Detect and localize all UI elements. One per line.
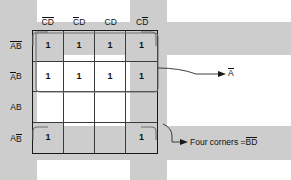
row-header-1: AB [2, 61, 30, 92]
kmap-cell-r1c3[interactable]: 1 [126, 62, 157, 93]
arrowhead-group-a [218, 71, 226, 77]
kmap-cell-r0c0[interactable]: 1 [33, 31, 64, 62]
kmap-cell-r0c1[interactable]: 1 [64, 31, 95, 62]
row-header-1-letter-b: B [16, 72, 22, 81]
kmap-cell-r1c1[interactable]: 1 [64, 62, 95, 93]
column-header-3: CD [127, 9, 159, 27]
annotation-group-a-letter: A [228, 68, 234, 78]
kmap-cell-r2c0[interactable] [33, 92, 64, 123]
kmap-cell-r3c1[interactable] [64, 123, 95, 154]
column-header-1: CD [64, 9, 96, 27]
row-header-0: AB [2, 30, 30, 61]
column-header-2: CD [95, 9, 127, 27]
karnaugh-map-figure: CD CD CD CD AB AB AB AB 1 1 1 1 1 1 [0, 0, 291, 180]
kmap-cell-r2c3[interactable] [126, 92, 157, 123]
row-header-0-letter-b: B [16, 41, 22, 51]
column-header-0: CD [32, 9, 64, 27]
kmap-cell-r3c0[interactable]: 1 [33, 123, 64, 154]
row-header-3-letter-b: B [16, 134, 22, 144]
kmap-cell-r2c2[interactable] [95, 92, 126, 123]
leader-line-group-a [158, 68, 218, 74]
kmap-cell-r0c2[interactable]: 1 [95, 31, 126, 62]
annotation-corners-letter-d: D [251, 137, 257, 147]
kmap-cell-r1c2[interactable]: 1 [95, 62, 126, 93]
column-header-0-letter-d: D [48, 17, 54, 27]
row-header-2-letter-b: B [16, 103, 22, 112]
row-header-column: AB AB AB AB [2, 30, 30, 154]
row-header-2: AB [2, 92, 30, 123]
kmap-cell-r3c2[interactable] [95, 123, 126, 154]
annotation-group-corners: Four corners = BD [190, 137, 257, 147]
kmap-cell-r3c3[interactable]: 1 [126, 123, 157, 154]
kmap-grid: 1 1 1 1 1 1 1 1 1 1 [32, 30, 158, 154]
annotation-group-a: A [228, 68, 234, 78]
column-header-row: CD CD CD CD [32, 9, 158, 27]
kmap-cell-r2c1[interactable] [64, 92, 95, 123]
column-header-3-letter-d: D [142, 17, 148, 27]
annotation-corners-prefix: Four corners = [190, 138, 246, 147]
kmap-cell-r0c3[interactable]: 1 [126, 31, 157, 62]
column-header-1-letter-d: D [79, 18, 85, 27]
kmap-cell-r1c0[interactable]: 1 [33, 62, 64, 93]
column-header-2-letter-d: D [111, 18, 117, 27]
row-header-3: AB [2, 123, 30, 154]
